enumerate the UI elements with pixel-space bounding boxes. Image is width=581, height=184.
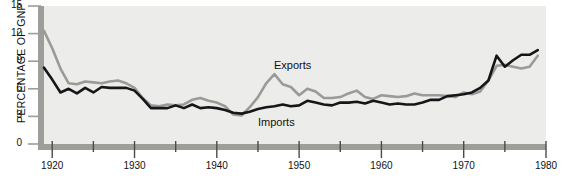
x-tick-label: 1980 [526, 160, 566, 171]
x-tick-label: 1950 [279, 160, 319, 171]
y-tick-label: 0 [2, 137, 22, 148]
y-tick-label: 6 [2, 82, 22, 93]
annotation-imports: Imports [258, 116, 295, 128]
y-tick-label: 9 [2, 54, 22, 65]
x-tick-label: 1940 [197, 160, 237, 171]
x-tick-label: 1920 [32, 160, 72, 171]
chart-figure: PERCENTAGE OF GNP 03691215 1920193019401… [0, 0, 581, 184]
x-tick-label: 1960 [361, 160, 401, 171]
x-tick-label: 1970 [444, 160, 484, 171]
x-tick-label: 1930 [115, 160, 155, 171]
annotation-exports: Exports [274, 59, 311, 71]
y-tick-label: 3 [2, 109, 22, 120]
y-tick-label: 15 [2, 0, 22, 10]
y-tick-label: 12 [2, 27, 22, 38]
series-line-exports [44, 31, 538, 116]
x-tick-marks [52, 141, 546, 158]
y-tick-marks [28, 6, 41, 144]
chart-canvas [0, 0, 581, 184]
